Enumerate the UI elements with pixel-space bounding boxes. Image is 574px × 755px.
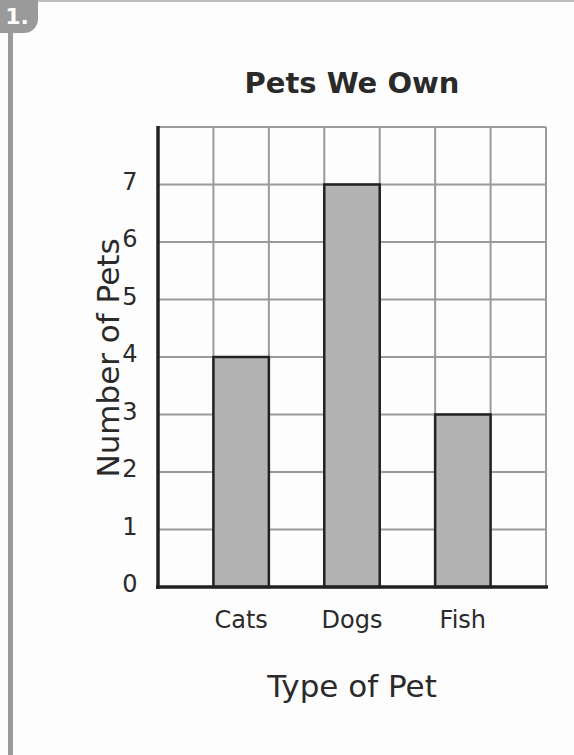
bar-chart [0, 0, 574, 755]
bars [213, 185, 490, 588]
bar-fish [435, 415, 490, 588]
bar-cats [213, 357, 268, 587]
y-tick-1: 1 [115, 513, 145, 541]
y-tick-0: 0 [115, 570, 145, 598]
x-tick-dogs: Dogs [312, 606, 392, 634]
x-tick-cats: Cats [201, 606, 281, 634]
bar-dogs [324, 185, 379, 588]
y-axis-label: Number of Pets [90, 208, 126, 508]
x-axis-label: Type of Pet [158, 668, 546, 704]
y-tick-7: 7 [115, 168, 145, 196]
x-tick-fish: Fish [423, 606, 503, 634]
